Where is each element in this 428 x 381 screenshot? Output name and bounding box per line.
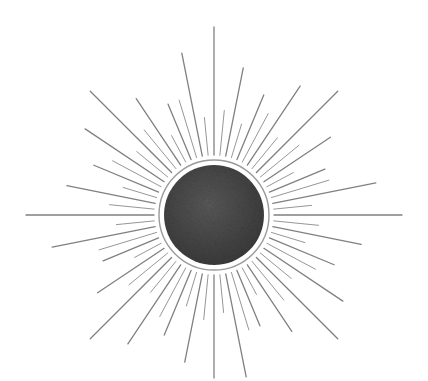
- sun-ray: [90, 91, 171, 172]
- sun-ray: [179, 100, 196, 157]
- sun-ray: [264, 137, 331, 181]
- sun-ray: [110, 205, 155, 209]
- sun-ray: [204, 275, 208, 320]
- sun-disc: [164, 165, 264, 265]
- sun-ray: [98, 248, 165, 292]
- sun-ray: [204, 117, 208, 155]
- sunburst-illustration: [0, 0, 428, 381]
- sun-ray: [226, 68, 244, 156]
- sun-ray: [274, 205, 312, 209]
- sun-ray: [267, 173, 293, 187]
- sun-ray: [85, 129, 164, 182]
- sun-ray: [247, 86, 300, 165]
- sun-ray: [52, 227, 155, 247]
- sun-ray: [220, 275, 224, 313]
- sun-ray: [273, 227, 361, 245]
- sun-ray: [128, 265, 181, 344]
- sun-ray: [99, 232, 156, 249]
- sun-ray: [135, 243, 161, 257]
- sun-ray: [271, 180, 328, 197]
- sun-ray: [226, 274, 246, 377]
- sun-ray: [231, 272, 248, 329]
- sun-ray: [182, 53, 202, 156]
- sun-ray: [220, 111, 224, 156]
- sun-ray: [242, 268, 256, 294]
- sun-ray: [264, 248, 343, 301]
- sun-ray: [274, 221, 319, 225]
- sun-ray: [273, 183, 376, 203]
- sun-ray: [256, 257, 337, 338]
- sun-ray: [67, 186, 155, 204]
- sun-ray: [247, 265, 291, 332]
- sun-ray: [172, 136, 186, 162]
- sun-ray: [116, 221, 154, 225]
- sun-ray: [136, 99, 180, 166]
- sun-ray: [256, 91, 337, 172]
- sun-ray: [90, 257, 171, 338]
- sun-ray: [185, 274, 203, 362]
